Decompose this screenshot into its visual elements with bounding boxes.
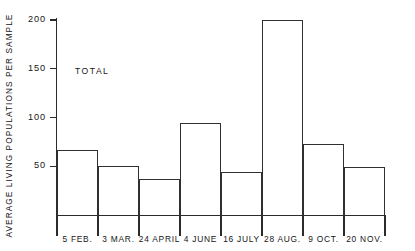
- chart-container: AVERAGE LIVING POPULATIONS PER SAMPLE 50…: [0, 0, 415, 251]
- x-axis-tick-label: 9 OCT.: [303, 232, 344, 246]
- bar: [303, 144, 344, 215]
- x-axis-tick-label: 3 MAR.: [98, 232, 139, 246]
- y-axis-tick-label: 150: [0, 64, 46, 73]
- bar: [139, 179, 180, 215]
- y-axis-tick-label: 100: [0, 113, 46, 122]
- y-axis-title: AVERAGE LIVING POPULATIONS PER SAMPLE: [0, 0, 18, 251]
- bar: [344, 167, 385, 215]
- bar: [221, 172, 262, 215]
- series-annotation-label: TOTAL: [75, 66, 109, 76]
- y-axis-tick: [50, 68, 57, 69]
- x-axis-tick-label: 16 JULY: [221, 232, 262, 246]
- x-axis-tick-label: 4 JUNE: [180, 232, 221, 246]
- x-axis-tick-label: 24 APRIL: [139, 232, 180, 246]
- y-axis-tick: [50, 117, 57, 118]
- bar: [98, 166, 139, 215]
- y-axis-tick-label: 50: [0, 161, 46, 170]
- x-axis-tick-label: 20 NOV.: [344, 232, 385, 246]
- bar: [180, 123, 221, 215]
- y-axis-tick: [50, 166, 57, 167]
- x-axis-tick-label: 28 AUG.: [262, 232, 303, 246]
- bar: [262, 20, 303, 215]
- x-axis-tick-label: 5 FEB.: [57, 232, 98, 246]
- y-axis-tick-label: 200: [0, 15, 46, 24]
- y-axis-tick: [50, 19, 57, 20]
- bar: [57, 150, 98, 215]
